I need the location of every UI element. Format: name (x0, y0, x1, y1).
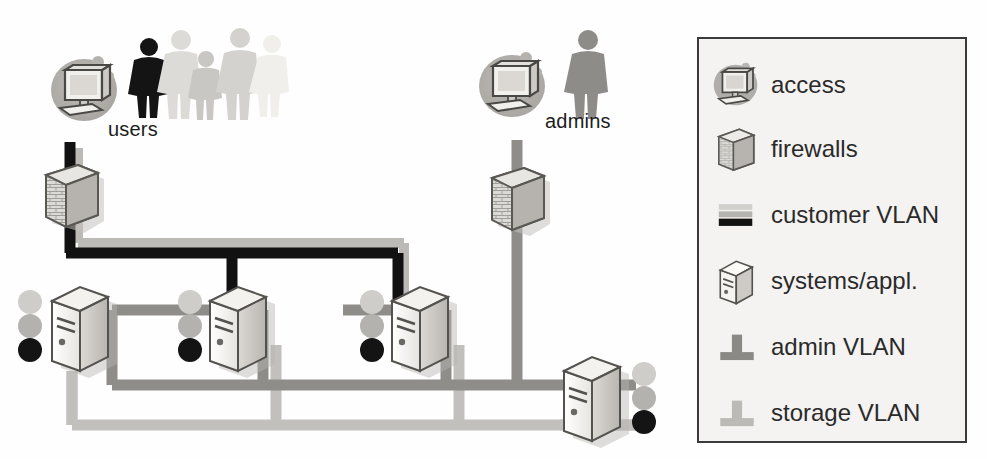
legend-label-storage-vlan: storage VLAN (771, 399, 920, 427)
user-silhouette-4 (216, 28, 260, 120)
server-1[interactable] (18, 287, 117, 378)
firewall-admin[interactable] (492, 168, 550, 236)
firewall-icon (713, 125, 761, 173)
legend-item-storage-vlan[interactable]: storage VLAN (699, 385, 965, 441)
legend-item-access[interactable]: access (699, 57, 965, 113)
customer-vlan-cables (66, 142, 404, 302)
access-workstation-icon (479, 52, 545, 117)
admin-vlan-icon (713, 323, 761, 371)
access-workstation-icon (51, 56, 117, 121)
users-group[interactable] (51, 28, 289, 121)
legend-label-access: access (771, 71, 846, 99)
status-indicators (178, 290, 202, 362)
status-indicators (18, 290, 42, 362)
legend-label-firewalls: firewalls (771, 135, 858, 163)
server-2[interactable] (178, 287, 275, 378)
legend-label-systems: systems/appl. (771, 267, 918, 295)
customer-vlan-icon (713, 191, 761, 239)
server-4[interactable] (564, 357, 656, 448)
access-workstation-icon (713, 61, 761, 109)
server-icon (713, 257, 761, 305)
legend-item-admin-vlan[interactable]: admin VLAN (699, 319, 965, 375)
legend-label-admin-vlan: admin VLAN (771, 333, 906, 361)
user-silhouette-shadow (249, 35, 289, 117)
legend-item-customer-vlan[interactable]: customer VLAN (699, 187, 965, 243)
storage-vlan-icon (713, 389, 761, 437)
firewall-customer[interactable] (46, 165, 104, 233)
admin-silhouette-1 (564, 30, 608, 119)
users-label: users (108, 118, 158, 141)
legend-label-customer-vlan: customer VLAN (771, 201, 939, 229)
server-3[interactable] (360, 287, 457, 378)
legend-box: access firewalls (697, 37, 967, 443)
admins-group[interactable] (479, 30, 608, 119)
legend-item-systems[interactable]: systems/appl. (699, 253, 965, 309)
admins-label: admins (545, 110, 611, 133)
status-indicators (360, 290, 384, 362)
status-indicators (632, 362, 656, 434)
legend-item-firewalls[interactable]: firewalls (699, 121, 965, 177)
